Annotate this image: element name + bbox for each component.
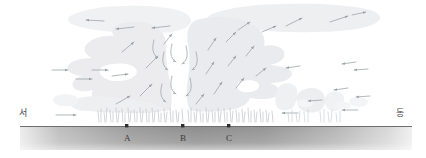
arrow-downdraft-c5 — [182, 46, 187, 64]
arrow-midlevel-e1 — [286, 66, 300, 68]
ground-point-label-a: A — [124, 133, 131, 143]
precip-band-light-1 — [288, 110, 308, 122]
point-marker-b[interactable] — [181, 124, 184, 127]
flanking-tower-3 — [325, 91, 344, 111]
flanking-tower-1 — [275, 83, 297, 110]
arrow-midlevel-e3 — [354, 69, 368, 70]
figure-canvas: 서 동 A B C — [0, 0, 426, 158]
ground-point-label-b: B — [180, 133, 186, 143]
cloudlet-right-1 — [349, 97, 368, 107]
ground-surface — [20, 126, 412, 150]
cross-section-diagram — [0, 0, 426, 158]
arrow-downdraft-c1 — [171, 44, 176, 62]
cloud-mass — [53, 4, 380, 113]
direction-label-west: 서 — [19, 106, 27, 119]
arrow-midlevel-e2 — [342, 62, 356, 64]
arrow-inflow-east-4 — [356, 96, 370, 97]
ground-shading — [20, 126, 412, 150]
point-marker-c[interactable] — [227, 124, 230, 127]
direction-label-east: 동 — [396, 106, 404, 119]
point-marker-a[interactable] — [125, 124, 128, 127]
arrow-inflow-east-5 — [334, 88, 348, 90]
cloudlet-left — [53, 94, 78, 106]
ground-point-label-c: C — [226, 133, 232, 143]
precip-band-light-2 — [320, 109, 340, 122]
arrow-downdraft-c3 — [171, 76, 176, 94]
